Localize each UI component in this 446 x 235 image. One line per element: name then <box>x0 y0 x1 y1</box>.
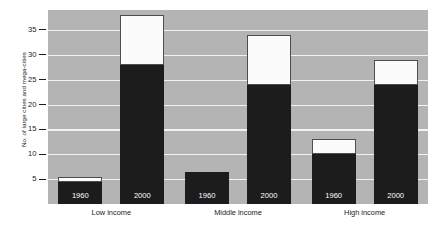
gridline <box>48 129 428 130</box>
bar-segment-upper <box>312 139 356 154</box>
bar-segment-lower <box>58 182 102 204</box>
y-axis-tick-label: 5 <box>32 174 36 184</box>
bar-segment-upper <box>120 15 164 65</box>
bar[interactable]: 1960 <box>185 172 229 204</box>
bar-segment-lower <box>247 85 291 204</box>
bar-segment-upper <box>374 60 418 85</box>
y-axis-tick: 20 <box>28 100 48 110</box>
bar[interactable]: 2000 <box>120 15 164 204</box>
category-label: High income <box>301 208 428 217</box>
gridline <box>48 80 428 81</box>
gridline <box>48 55 428 56</box>
y-axis-tick-mark <box>39 154 46 155</box>
gridline <box>48 105 428 106</box>
category-axis-labels: Low incomeMiddle incomeHigh income <box>48 208 428 224</box>
y-axis-tick: 10 <box>28 149 48 159</box>
gridline <box>48 154 428 155</box>
y-axis-tick-mark <box>39 79 46 80</box>
bar-segment-lower <box>374 85 418 204</box>
bar-segment-lower <box>120 65 164 204</box>
bar[interactable]: 1960 <box>312 139 356 204</box>
category-label: Low income <box>48 208 175 217</box>
y-axis-tick-label: 15 <box>28 124 36 134</box>
y-axis-tick-mark <box>39 179 46 180</box>
y-axis-tick-label: 30 <box>28 50 36 60</box>
y-axis-tick-label: 20 <box>28 100 36 110</box>
y-axis-tick-mark <box>39 54 46 55</box>
bar-segment-lower <box>185 172 229 204</box>
bar-chart: No. of large cities and mega-cities 5101… <box>0 0 446 235</box>
y-axis-tick-label: 25 <box>28 75 36 85</box>
gridline <box>48 179 428 180</box>
y-axis-tick-mark <box>39 129 46 130</box>
gridline <box>48 30 428 31</box>
y-axis: 5101520253035 <box>0 0 48 204</box>
y-axis-tick: 25 <box>28 75 48 85</box>
bar[interactable]: 1960 <box>58 177 102 204</box>
y-axis-tick-mark <box>39 29 46 30</box>
y-axis-tick: 30 <box>28 50 48 60</box>
bar-segment-lower <box>312 154 356 204</box>
y-axis-tick-mark <box>39 104 46 105</box>
bar[interactable]: 2000 <box>374 60 418 204</box>
plot-area: 196020001960200019602000 <box>48 10 428 204</box>
y-axis-tick-label: 10 <box>28 149 36 159</box>
y-axis-tick: 35 <box>28 25 48 35</box>
y-axis-tick-label: 35 <box>28 25 36 35</box>
y-axis-tick: 5 <box>32 174 48 184</box>
bar-segment-upper <box>247 35 291 85</box>
category-label: Middle income <box>175 208 302 217</box>
bar[interactable]: 2000 <box>247 35 291 204</box>
y-axis-tick: 15 <box>28 124 48 134</box>
